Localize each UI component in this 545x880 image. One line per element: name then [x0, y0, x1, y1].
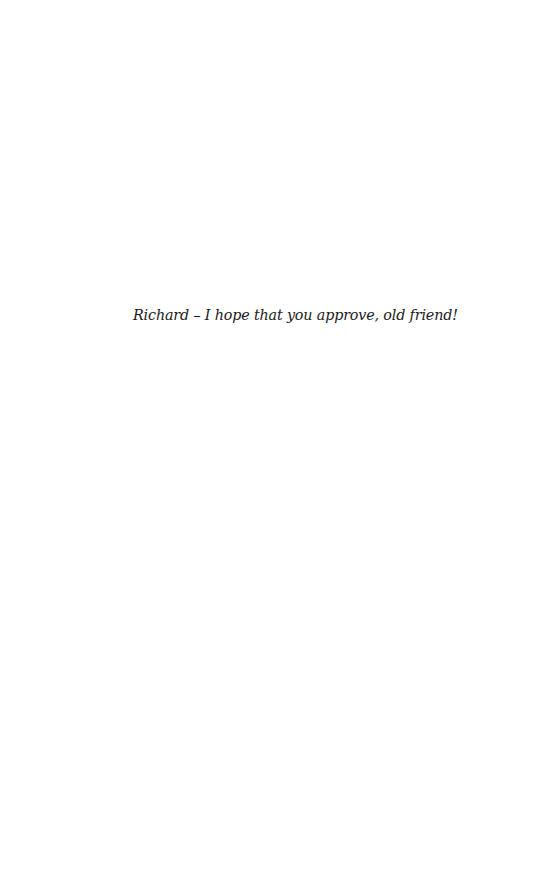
- dedication-text: Richard – I hope that you approve, old f…: [133, 306, 458, 324]
- document-page: Richard – I hope that you approve, old f…: [0, 0, 545, 880]
